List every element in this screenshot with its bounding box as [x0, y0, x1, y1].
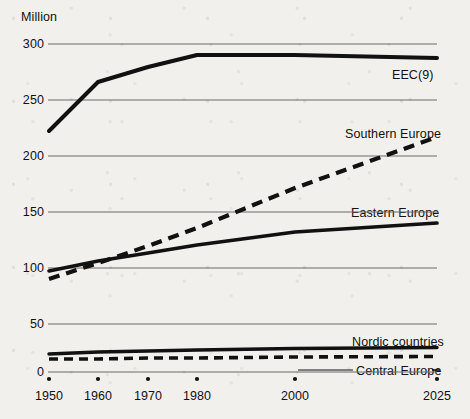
x-tick-dot-1980 — [195, 377, 199, 381]
x-tick-dot-1970 — [146, 377, 150, 381]
series-line-nordic-countries — [49, 348, 437, 355]
plot-canvas — [0, 0, 470, 419]
series-line-central-europe — [49, 357, 437, 360]
series-line-eec9 — [49, 55, 437, 131]
x-tick-dot-1950 — [47, 377, 51, 381]
x-tick-dot-2000 — [293, 377, 297, 381]
x-tick-dot-2025 — [435, 377, 439, 381]
x-axis-tick-dots — [47, 377, 439, 381]
series-line-eastern-europe — [49, 223, 437, 271]
x-tick-dot-1960 — [96, 377, 100, 381]
population-projection-line-chart: Million 300 250 200 150 100 50 0 1950 19… — [0, 0, 470, 419]
series-line-southern-europe — [49, 137, 437, 279]
